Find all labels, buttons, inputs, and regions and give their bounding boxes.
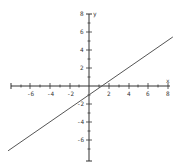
x-tick-label: 6 [146,90,150,97]
x-tick-label: 4 [127,90,131,97]
x-tick-label: -4 [47,90,55,97]
y-tick-label: 2 [80,64,84,71]
x-tick-label: -2 [67,90,75,97]
x-tick-label: 2 [107,90,111,97]
y-tick-label: -6 [77,136,85,143]
y-tick-label: 6 [80,28,84,35]
x-tick-label: -6 [27,90,35,97]
y-axis-label: y [93,10,97,18]
x-tick-label: 8 [166,90,170,97]
y-tick-label: -4 [77,118,85,125]
x-axis-label: x [166,77,170,84]
y-tick-label: 8 [80,10,84,17]
chart: -6 -4 -2 2 4 6 8 x 8 6 4 2 -2 -4 -6 y [0,0,179,168]
y-tick-label: 4 [80,46,84,53]
